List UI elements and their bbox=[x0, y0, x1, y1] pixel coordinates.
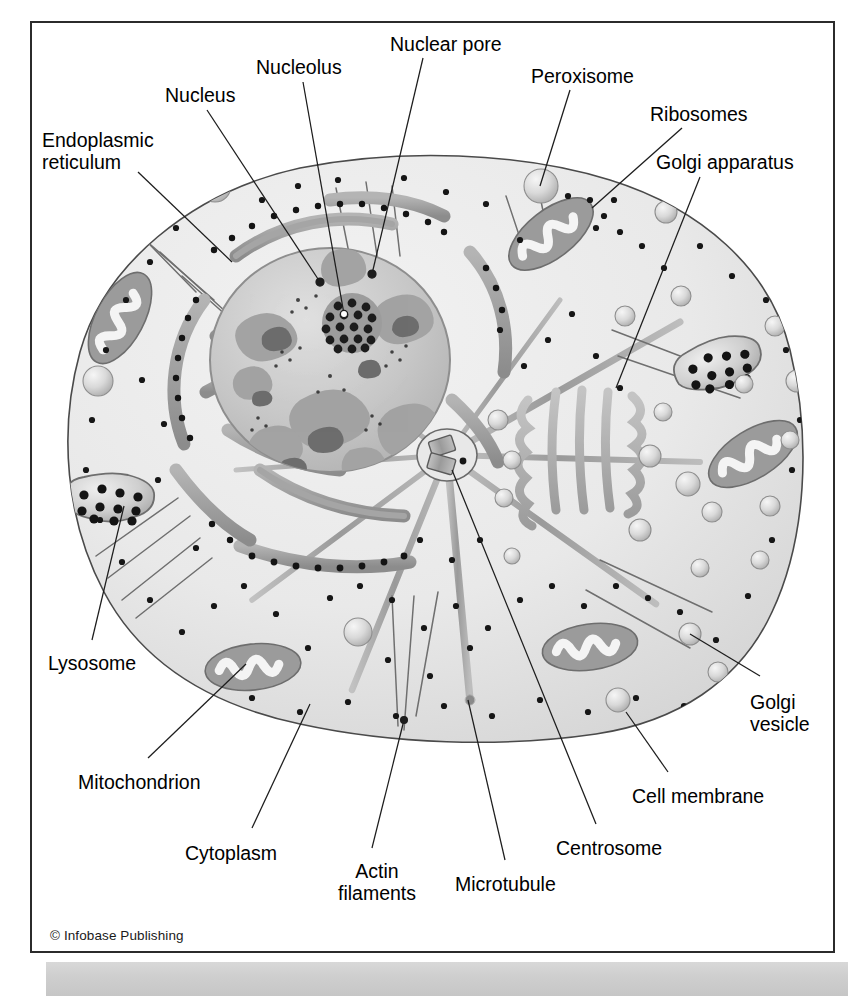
label-peroxisome: Peroxisome bbox=[531, 66, 634, 88]
label-ribosomes: Ribosomes bbox=[650, 104, 748, 126]
label-nucleus: Nucleus bbox=[165, 85, 235, 107]
label-nucleolus: Nucleolus bbox=[256, 57, 342, 79]
label-cytoplasm: Cytoplasm bbox=[185, 843, 277, 865]
copyright-credit: © Infobase Publishing bbox=[50, 928, 184, 943]
label-endoplasmic-reticulum: Endoplasmic reticulum bbox=[42, 130, 154, 174]
label-mitochondrion: Mitochondrion bbox=[78, 772, 200, 794]
label-golgi-vesicle: Golgi vesicle bbox=[750, 692, 810, 736]
label-cell-membrane: Cell membrane bbox=[632, 786, 764, 808]
label-golgi-apparatus: Golgi apparatus bbox=[656, 152, 794, 174]
centrosome bbox=[417, 429, 477, 481]
label-nuclear-pore: Nuclear pore bbox=[390, 34, 502, 56]
label-microtubule: Microtubule bbox=[455, 874, 556, 896]
label-actin-filaments: Actin filaments bbox=[338, 861, 416, 905]
nucleolus bbox=[322, 293, 382, 353]
label-lysosome: Lysosome bbox=[48, 653, 136, 675]
peroxisome bbox=[524, 169, 558, 203]
figure-page: Nuclear pore Nucleolus Peroxisome Nucleu… bbox=[0, 0, 848, 996]
label-centrosome: Centrosome bbox=[556, 838, 662, 860]
leader-cytoplasm bbox=[252, 704, 310, 828]
